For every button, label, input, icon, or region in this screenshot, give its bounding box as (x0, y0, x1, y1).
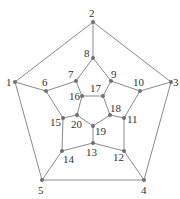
node-6 (44, 89, 48, 93)
edge-11-18 (110, 115, 124, 118)
node-label-19: 19 (95, 125, 107, 137)
node-label-16: 16 (69, 90, 81, 102)
node-4 (142, 178, 146, 182)
node-label-14: 14 (63, 153, 75, 165)
node-label-9: 9 (111, 68, 117, 80)
edge-3-10 (140, 82, 171, 91)
edge-8-9 (93, 58, 111, 81)
node-10 (138, 89, 142, 93)
node-2 (91, 20, 95, 24)
node-label-13: 13 (86, 146, 98, 158)
edge-7-8 (76, 58, 93, 81)
node-label-18: 18 (110, 102, 122, 114)
node-label-8: 8 (84, 47, 90, 59)
node-label-15: 15 (50, 116, 62, 128)
node-label-11: 11 (127, 113, 138, 125)
edge-14-15 (62, 118, 63, 151)
edge-3-4 (144, 82, 171, 180)
node-5 (40, 178, 44, 182)
node-label-10: 10 (133, 76, 145, 88)
node-label-5: 5 (38, 184, 44, 196)
node-label-12: 12 (113, 151, 124, 163)
edge-4-12 (124, 151, 144, 180)
node-label-2: 2 (89, 7, 95, 19)
edge-5-1 (15, 82, 42, 180)
node-label-20: 20 (71, 118, 83, 130)
node-17 (101, 94, 105, 98)
node-label-4: 4 (141, 184, 147, 196)
node-20 (75, 113, 79, 117)
node-label-17: 17 (90, 82, 102, 94)
node-label-1: 1 (6, 76, 12, 88)
edge-5-14 (42, 151, 62, 180)
node-8 (91, 56, 95, 60)
dodecahedron-graph: 1234567891011121314151617181920 (0, 0, 180, 199)
node-1 (13, 80, 17, 84)
edge-9-17 (103, 81, 111, 96)
edge-17-18 (103, 96, 110, 115)
node-label-7: 7 (68, 68, 74, 80)
node-15 (61, 116, 65, 120)
node-label-6: 6 (42, 76, 48, 88)
edge-15-6 (46, 91, 63, 118)
edge-12-13 (93, 143, 124, 151)
node-16 (80, 94, 84, 98)
node-7 (74, 79, 78, 83)
node-label-3: 3 (173, 76, 179, 88)
node-11 (122, 116, 126, 120)
node-13 (91, 141, 95, 145)
